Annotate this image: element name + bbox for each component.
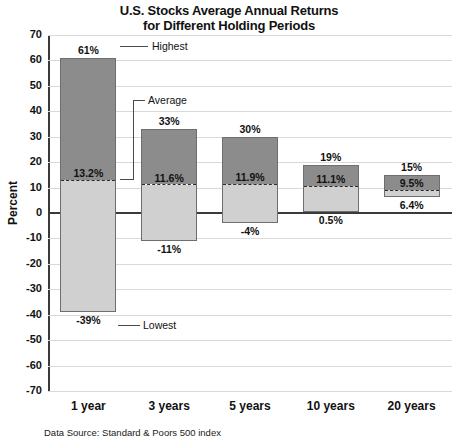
gridline <box>48 340 452 341</box>
average-leader-vertical <box>133 100 134 179</box>
y-axis-tick-label: 30 <box>4 130 42 142</box>
y-axis-tick-label: -50 <box>4 333 42 345</box>
bar-low-label: 0.5% <box>283 214 379 226</box>
y-axis-tick-label: -20 <box>4 257 42 269</box>
y-axis-tick-label: 60 <box>4 53 42 65</box>
average-marker-line <box>223 184 277 185</box>
y-axis-tick-label: 40 <box>4 104 42 116</box>
source-note: Data Source: Standard & Poors 500 index <box>44 427 221 438</box>
y-axis-tick-label: 50 <box>4 79 42 91</box>
x-axis-label-10-years: 10 years <box>286 399 376 413</box>
bar-1-year[interactable] <box>60 58 116 312</box>
average-marker-line <box>304 186 358 187</box>
x-axis-label-3-years: 3 years <box>124 399 214 413</box>
y-axis-tick-label: -40 <box>4 308 42 320</box>
bar-low-label: -11% <box>121 243 217 255</box>
x-axis-label-1-year: 1 year <box>43 399 133 413</box>
bar-low-label: -4% <box>202 225 298 237</box>
lowest-leader-line <box>118 325 140 326</box>
highest-leader-line <box>120 46 148 47</box>
bar-3-years[interactable] <box>141 129 197 241</box>
average-leader-stub <box>133 100 145 101</box>
average-leader-horizontal <box>120 179 134 180</box>
y-axis-tick-label: 70 <box>4 28 42 40</box>
bar-average-label: 11.1% <box>293 173 369 185</box>
gridline <box>48 391 452 392</box>
chart-container: U.S. Stocks Average Annual Returns for D… <box>0 0 458 445</box>
bar-low-label: 6.4% <box>364 199 458 211</box>
bar-10-years[interactable] <box>303 165 359 212</box>
bar-high-label: 15% <box>364 161 458 173</box>
y-axis-tick-label: -30 <box>4 282 42 294</box>
bar-segment-below-average <box>223 184 277 222</box>
bar-high-label: 30% <box>202 123 298 135</box>
x-axis-label-5-years: 5 years <box>205 399 295 413</box>
bar-segment-below-average <box>142 185 196 240</box>
y-axis-tick-label: -10 <box>4 231 42 243</box>
bar-segment-below-average <box>304 186 358 211</box>
gridline <box>48 35 452 36</box>
bar-average-label: 11.9% <box>212 171 288 183</box>
x-axis-label-20-years: 20 years <box>367 399 457 413</box>
annotation-average: Average <box>148 94 187 106</box>
bar-average-label: 13.2% <box>50 167 126 179</box>
y-axis-tick-label: -70 <box>4 384 42 396</box>
average-marker-line <box>142 184 196 185</box>
bar-segment-below-average <box>61 180 115 311</box>
bar-segment-above-average <box>61 59 115 181</box>
y-axis-tick-label: 10 <box>4 181 42 193</box>
bar-average-label: 11.6% <box>131 172 207 184</box>
annotation-lowest: Lowest <box>143 319 176 331</box>
y-axis-tick-label: 0 <box>4 206 42 218</box>
bar-average-label: 9.5% <box>374 177 450 189</box>
average-marker-line <box>61 180 115 181</box>
annotation-highest: Highest <box>152 40 188 52</box>
y-axis-tick-label: -60 <box>4 359 42 371</box>
average-marker-line <box>385 190 439 191</box>
y-axis-tick-label: 20 <box>4 155 42 167</box>
gridline <box>48 366 452 367</box>
plot-area: 61%13.2%-39%33%11.6%-11%30%11.9%-4%19%11… <box>48 35 452 391</box>
